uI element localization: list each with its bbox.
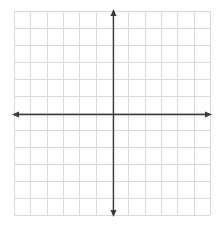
arrow-left-icon [12,112,19,118]
coordinate-plane [0,0,221,227]
grid-lines [14,11,211,216]
arrow-up-icon [111,9,117,16]
